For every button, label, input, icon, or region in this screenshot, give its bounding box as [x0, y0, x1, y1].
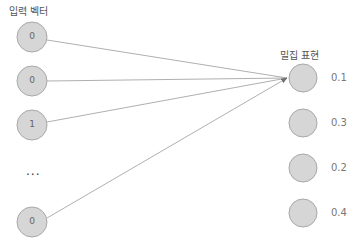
- output-nodes: [289, 64, 317, 227]
- diagram-canvas: [0, 0, 360, 250]
- edges: [47, 40, 287, 218]
- edge-input-4: [47, 78, 287, 218]
- input-nodes: [17, 22, 47, 237]
- output-node: [289, 64, 317, 92]
- input-vector-title: 입력 벡터: [9, 3, 48, 18]
- input-node-value: 0: [17, 75, 47, 85]
- ellipsis: ...: [26, 164, 40, 178]
- output-node-value: 0.2: [331, 162, 347, 173]
- edge-input-2: [47, 78, 287, 81]
- output-node: [289, 109, 317, 137]
- output-node: [289, 199, 317, 227]
- input-node-value: 0: [17, 31, 47, 41]
- edge-input-3: [47, 78, 287, 122]
- input-node-value: 0: [17, 216, 47, 226]
- output-node: [289, 154, 317, 182]
- edge-input-1: [47, 40, 287, 78]
- dense-representation-title: 밀집 표현: [280, 47, 319, 62]
- output-node-value: 0.3: [331, 117, 347, 128]
- input-node-value: 1: [17, 119, 47, 129]
- output-node-value: 0.4: [331, 207, 347, 218]
- output-node-value: 0.1: [331, 72, 347, 83]
